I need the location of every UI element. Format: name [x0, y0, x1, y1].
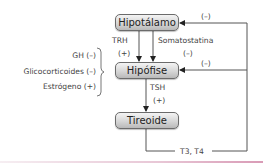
trh-label: TRH	[112, 36, 128, 45]
modulator-gh: GH (–)	[72, 51, 96, 60]
modulator-glicocorticoides: Glicocorticoides (–)	[24, 67, 96, 76]
decorative-bottom-rule	[0, 161, 263, 163]
feedback-hipotalamo-effect: (–)	[201, 12, 211, 21]
somatostatina-label: Somatostatina	[158, 36, 213, 45]
tsh-effect: (+)	[153, 96, 165, 105]
tsh-label: TSH	[150, 83, 165, 92]
node-hipofise: Hipófise	[115, 62, 179, 79]
node-tireoide-label: Tireoide	[127, 115, 167, 126]
node-hipotalamo-label: Hipotálamo	[118, 17, 176, 28]
node-hipofise-label: Hipófise	[127, 65, 167, 76]
somatostatina-effect: (–)	[183, 49, 193, 58]
feedback-hipofise-effect: (–)	[201, 59, 211, 68]
node-tireoide: Tireoide	[115, 112, 179, 129]
node-hipotalamo: Hipotálamo	[115, 14, 179, 31]
trh-effect: (+)	[118, 49, 130, 58]
modulator-estrogeno: Estrógeno (+)	[43, 82, 96, 91]
feedback-t3-t4-label: T3, T4	[180, 147, 204, 156]
